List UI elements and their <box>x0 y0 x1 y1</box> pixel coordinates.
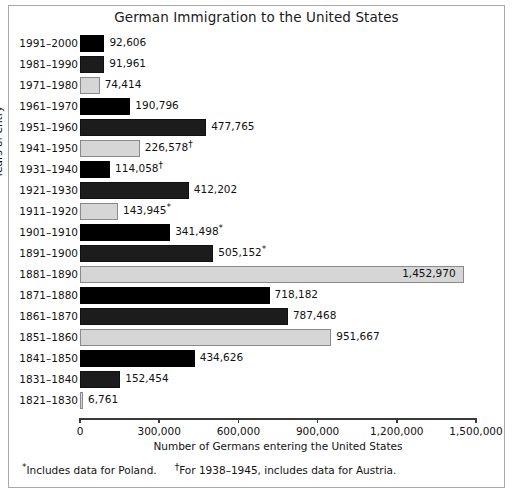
bar-row: 1981–199091,961 <box>80 54 476 75</box>
bar-row: 1841–1850434,626 <box>80 348 476 369</box>
bar <box>80 119 206 136</box>
bar-value-label: 718,182 <box>275 288 318 300</box>
y-tick-label-text: 1971–1980 <box>6 79 78 91</box>
bar-value-label: 190,796 <box>135 99 178 111</box>
bar-value-label: 477,765 <box>211 120 254 132</box>
y-tick-label: 1931–1940 <box>2 159 78 180</box>
bar-row: 1851–1860951,667 <box>80 327 476 348</box>
bar-value-label: 91,961 <box>109 57 146 69</box>
bar-row: 1941–1950226,578† <box>80 138 476 159</box>
bar-row: 1951–1960477,765 <box>80 117 476 138</box>
x-tick-label: 300,000 <box>137 425 180 437</box>
bar <box>80 350 195 367</box>
footnote-austria-text: For 1938–1945, includes data for Austria… <box>179 464 396 476</box>
footnotes: *Includes data for Poland.†For 1938–1945… <box>22 464 396 476</box>
y-tick-label: 1841–1850 <box>2 348 78 369</box>
y-tick-label-text: 1901–1910 <box>6 226 78 238</box>
bar-value-label: 341,498* <box>175 225 223 237</box>
x-tick-label: 600,000 <box>217 425 260 437</box>
chart-title: German Immigration to the United States <box>0 9 513 25</box>
bar-row: 1831–1840152,454 <box>80 369 476 390</box>
y-tick-label-text: 1921–1930 <box>6 184 78 196</box>
bar-value-label: 152,454 <box>125 372 168 384</box>
bar <box>80 77 100 94</box>
y-tick-label-text: 1861–1870 <box>6 310 78 322</box>
x-tick-label: 0 <box>77 425 84 437</box>
value-footnote-mark-icon: * <box>262 244 267 254</box>
bar-value-label: 226,578† <box>145 141 193 153</box>
x-tick <box>158 418 160 423</box>
y-tick-label-text: 1931–1940 <box>6 163 78 175</box>
y-tick-label: 1991–2000 <box>2 33 78 54</box>
bar <box>80 287 270 304</box>
y-tick-label: 1891–1900 <box>2 243 78 264</box>
bar-value-label: 74,414 <box>105 78 142 90</box>
y-tick-label-text: 1951–1960 <box>6 121 78 133</box>
y-tick-label-text: 1961–1970 <box>6 100 78 112</box>
bar-row: 1901–1910341,498* <box>80 222 476 243</box>
y-tick-label: 1901–1910 <box>2 222 78 243</box>
value-footnote-mark-icon: * <box>166 202 171 212</box>
bar-value-label: 434,626 <box>200 351 243 363</box>
bar-row: 1971–198074,414 <box>80 75 476 96</box>
y-tick-label: 1951–1960 <box>2 117 78 138</box>
value-footnote-mark-icon: † <box>188 139 193 149</box>
footnote-poland: *Includes data for Poland. <box>22 464 157 476</box>
y-tick-label-text: 1911–1920 <box>6 205 78 217</box>
y-tick-label: 1981–1990 <box>2 54 78 75</box>
bar-row: 1911–1920143,945* <box>80 201 476 222</box>
bar-value-label: 6,761 <box>88 393 118 405</box>
y-tick-label: 1911–1920 <box>2 201 78 222</box>
bar <box>80 182 189 199</box>
bar <box>80 371 120 388</box>
x-tick <box>396 418 398 423</box>
bar-row: 1961–1970190,796 <box>80 96 476 117</box>
bar-row: 1931–1940114,058† <box>80 159 476 180</box>
bar-row: 1861–1870787,468 <box>80 306 476 327</box>
x-tick <box>238 418 240 423</box>
footnote-poland-text: Includes data for Poland. <box>27 464 157 476</box>
y-tick-label: 1961–1970 <box>2 96 78 117</box>
bar-row: 1881–18901,452,970 <box>80 264 476 285</box>
y-tick-label-text: 1871–1880 <box>6 289 78 301</box>
y-tick-label: 1831–1840 <box>2 369 78 390</box>
y-tick-label-text: 1851–1860 <box>6 331 78 343</box>
y-tick-label-text: 1841–1850 <box>6 352 78 364</box>
y-tick-label: 1821–1830 <box>2 390 78 411</box>
value-footnote-mark-icon: † <box>159 160 164 170</box>
y-tick-label-text: 1881–1890 <box>6 268 78 280</box>
y-tick-label: 1921–1930 <box>2 180 78 201</box>
y-tick-label: 1871–1880 <box>2 285 78 306</box>
y-tick-label: 1881–1890 <box>2 264 78 285</box>
bar-value-label: 92,606 <box>109 36 146 48</box>
y-tick-label: 1971–1980 <box>2 75 78 96</box>
y-tick-label-text: 1821–1830 <box>6 394 78 406</box>
x-tick <box>79 418 81 423</box>
y-tick-label: 1941–1950 <box>2 138 78 159</box>
footnote-austria: †For 1938–1945, includes data for Austri… <box>175 464 397 476</box>
y-tick-label-text: 1981–1990 <box>6 58 78 70</box>
bar-value-label: 114,058† <box>115 162 163 174</box>
bar-value-label: 143,945* <box>123 204 171 216</box>
x-axis-title: Number of Germans entering the United St… <box>80 440 476 452</box>
bar-row: 1871–1880718,182 <box>80 285 476 306</box>
x-tick-label: 1,500,000 <box>449 425 502 437</box>
y-tick-label-text: 1941–1950 <box>6 142 78 154</box>
value-footnote-mark-icon: * <box>219 223 224 233</box>
bar <box>80 161 110 178</box>
bar <box>80 224 170 241</box>
bar-value-label: 505,152* <box>218 246 266 258</box>
x-axis-line: 0300,000600,000900,0001,200,0001,500,000 <box>80 418 476 420</box>
bar <box>80 392 83 409</box>
chart-page: German Immigration to the United States … <box>0 0 513 498</box>
bar <box>80 329 331 346</box>
bar <box>80 203 118 220</box>
y-tick-label: 1861–1870 <box>2 306 78 327</box>
bar-value-label: 951,667 <box>336 330 379 342</box>
bar <box>80 56 104 73</box>
bar <box>80 308 288 325</box>
y-tick-label-text: 1991–2000 <box>6 37 78 49</box>
x-tick-label: 900,000 <box>296 425 339 437</box>
bar-row: 1921–1930412,202 <box>80 180 476 201</box>
x-tick <box>475 418 477 423</box>
